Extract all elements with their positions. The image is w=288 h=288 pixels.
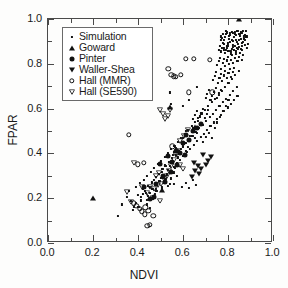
data-point — [128, 199, 134, 205]
data-point — [211, 101, 213, 103]
circle-open-icon — [66, 75, 79, 86]
data-point — [221, 80, 223, 82]
data-point — [246, 47, 248, 49]
data-point — [131, 160, 137, 166]
data-point — [193, 144, 195, 146]
data-point — [137, 194, 139, 196]
data-point — [187, 146, 189, 148]
small-dot-glyph — [71, 36, 73, 38]
data-point — [206, 112, 208, 114]
data-point — [196, 140, 198, 142]
data-point — [164, 173, 170, 179]
data-point — [226, 59, 228, 61]
data-point — [223, 49, 225, 51]
data-point — [204, 109, 206, 111]
data-point — [230, 103, 232, 105]
data-point — [216, 64, 218, 66]
data-point — [207, 105, 209, 107]
data-point — [213, 127, 215, 129]
data-point — [192, 168, 198, 173]
data-point — [203, 133, 205, 135]
data-point — [237, 43, 239, 45]
data-point — [199, 115, 201, 117]
data-point — [216, 97, 218, 99]
data-point — [229, 68, 231, 70]
data-point — [219, 56, 221, 58]
data-point — [191, 56, 196, 61]
data-point — [176, 175, 178, 177]
data-point — [236, 19, 242, 22]
data-point — [175, 148, 181, 154]
data-point — [233, 99, 235, 101]
data-point — [204, 97, 206, 99]
x-tick-label: 0.4 — [117, 246, 157, 258]
data-point — [90, 195, 96, 200]
data-point — [162, 168, 164, 170]
y-tick-label: 1.0 — [2, 12, 42, 24]
data-point — [202, 108, 204, 110]
data-point — [157, 198, 163, 204]
data-point — [232, 46, 234, 48]
data-point — [126, 132, 131, 137]
triangle-down-glyph — [69, 68, 75, 73]
data-point — [211, 137, 213, 139]
data-point — [178, 72, 183, 77]
data-point — [167, 108, 173, 114]
circle-glyph — [70, 57, 75, 62]
y-tick-label: 0.8 — [2, 57, 42, 69]
data-point — [200, 152, 206, 157]
data-point — [202, 141, 204, 143]
data-point — [173, 183, 175, 185]
legend-item-hall-se590: Hall (SE590) — [66, 86, 148, 97]
data-point — [140, 199, 142, 201]
data-point — [228, 35, 230, 37]
data-point — [132, 209, 134, 211]
legend-label: Hall (SE590) — [79, 86, 137, 97]
data-point — [166, 66, 171, 71]
data-point — [226, 47, 228, 49]
data-point — [181, 186, 183, 188]
data-point — [228, 63, 230, 65]
data-point — [227, 72, 229, 74]
data-point — [224, 70, 226, 72]
data-point — [153, 167, 155, 169]
y-tick-label: 0.2 — [2, 191, 42, 203]
data-point — [141, 160, 146, 165]
data-point — [151, 213, 156, 218]
data-point — [215, 109, 217, 111]
data-point — [218, 105, 220, 107]
triangle-down-open-icon — [66, 86, 79, 97]
data-point — [205, 136, 207, 138]
axis-tick — [265, 243, 271, 244]
triangle-down-open-glyph — [69, 89, 75, 95]
data-point — [185, 182, 187, 184]
data-point — [212, 112, 214, 114]
data-point — [235, 53, 237, 55]
data-point — [224, 86, 226, 88]
data-point — [198, 121, 203, 126]
data-point — [168, 91, 170, 93]
data-point — [236, 95, 238, 97]
triangle-down-icon — [66, 64, 79, 75]
data-point — [182, 105, 184, 107]
data-point — [224, 65, 226, 67]
data-point — [207, 57, 212, 62]
data-point — [183, 56, 188, 61]
data-point — [145, 208, 150, 213]
data-point — [195, 110, 197, 112]
data-point — [242, 54, 244, 56]
data-point — [213, 121, 215, 123]
legend: SimulationGowardPinterWaller-SheaHall (M… — [62, 27, 153, 101]
small-dot-icon — [66, 31, 79, 42]
data-point — [234, 57, 236, 59]
data-point — [150, 195, 156, 201]
data-point — [147, 222, 152, 227]
y-tick-label: 0.4 — [2, 146, 42, 158]
data-point — [189, 174, 195, 179]
data-point — [143, 179, 145, 181]
data-point — [194, 114, 196, 116]
data-point — [222, 62, 224, 64]
data-point — [210, 90, 215, 95]
data-point — [206, 93, 208, 95]
data-point — [212, 79, 214, 81]
